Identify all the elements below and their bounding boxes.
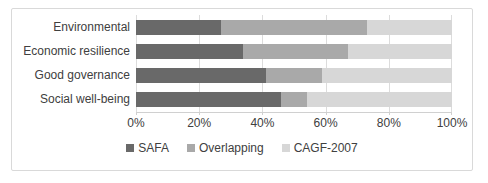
bar-segment xyxy=(348,44,452,59)
legend-marker-cagf-2007 xyxy=(282,144,290,152)
legend: SAFA Overlapping CAGF-2007 xyxy=(12,141,472,155)
bar-segment xyxy=(367,20,452,35)
legend-item-safa: SAFA xyxy=(126,141,169,155)
legend-label: CAGF-2007 xyxy=(294,141,358,155)
bar-segment xyxy=(136,92,281,107)
bar-segment xyxy=(266,68,323,83)
x-tick-label: 20% xyxy=(187,116,211,130)
chart-frame: Environmental Economic resilience Good g… xyxy=(11,8,473,171)
bar-segment xyxy=(307,92,452,107)
x-tick-label: 100% xyxy=(437,116,468,130)
bar-segment xyxy=(136,68,266,83)
axis-tick xyxy=(199,112,200,115)
bar-row xyxy=(136,68,452,83)
bar-segment xyxy=(221,20,366,35)
x-tick-label: 60% xyxy=(314,116,338,130)
axis-tick xyxy=(326,112,327,115)
x-tick-label: 40% xyxy=(250,116,274,130)
legend-marker-safa xyxy=(126,144,134,152)
bar-segment xyxy=(136,20,221,35)
category-axis: Environmental Economic resilience Good g… xyxy=(12,15,130,112)
legend-label: Overlapping xyxy=(199,141,264,155)
legend-marker-overlapping xyxy=(187,144,195,152)
bar-row xyxy=(136,44,452,59)
legend-item-cagf-2007: CAGF-2007 xyxy=(282,141,358,155)
bar-segment xyxy=(136,44,243,59)
axis-tick xyxy=(451,112,452,115)
x-tick-label: 0% xyxy=(127,116,144,130)
bar-segment xyxy=(243,44,347,59)
axis-tick xyxy=(262,112,263,115)
bar-segment xyxy=(322,68,452,83)
x-axis-labels: 0% 20% 40% 60% 80% 100% xyxy=(136,116,452,130)
x-tick-label: 80% xyxy=(377,116,401,130)
plot-area xyxy=(136,15,452,113)
bar-rows xyxy=(136,15,452,112)
bar-segment xyxy=(281,92,306,107)
legend-item-overlapping: Overlapping xyxy=(187,141,264,155)
axis-tick xyxy=(389,112,390,115)
category-label: Economic resilience xyxy=(12,44,130,59)
legend-label: SAFA xyxy=(138,141,169,155)
category-label: Good governance xyxy=(12,68,130,83)
bar-row xyxy=(136,20,452,35)
category-label: Environmental xyxy=(12,20,130,35)
bar-row xyxy=(136,92,452,107)
axis-tick xyxy=(136,112,137,115)
category-label: Social well-being xyxy=(12,92,130,107)
